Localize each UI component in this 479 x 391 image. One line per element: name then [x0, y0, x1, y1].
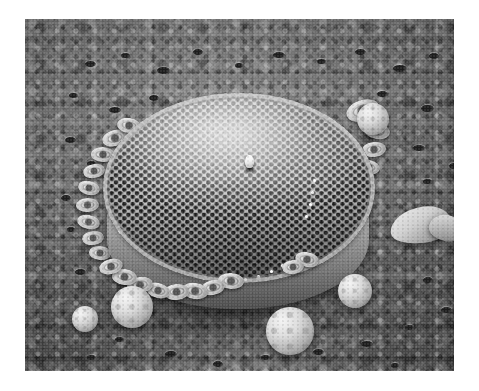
membrane-pore	[405, 325, 414, 330]
membrane-pore	[157, 67, 170, 74]
membrane-pore	[121, 53, 130, 58]
membrane-pore	[423, 179, 432, 184]
valve-face	[103, 93, 375, 283]
membrane-pore	[449, 163, 454, 169]
central-rimoportula	[245, 155, 254, 168]
membrane-pore	[69, 93, 78, 98]
coccosphere-right-cluster	[338, 274, 372, 308]
membrane-pore	[421, 105, 434, 112]
sem-micrograph-figure	[0, 0, 479, 391]
membrane-pore	[317, 59, 326, 64]
membrane-pore	[235, 63, 243, 68]
membrane-pore	[429, 53, 439, 59]
membrane-pore	[193, 49, 203, 55]
coccosphere-bottom-center	[266, 307, 314, 355]
membrane-pore	[85, 61, 96, 67]
membrane-pore	[361, 341, 373, 347]
membrane-pore	[61, 195, 71, 201]
micrograph-image	[25, 19, 454, 371]
membrane-pore	[87, 355, 96, 360]
coccosphere-lower-left	[111, 286, 153, 328]
membrane-pore	[355, 49, 366, 55]
coccosphere-left-margin	[72, 306, 98, 332]
membrane-pore	[423, 277, 433, 283]
membrane-pore	[391, 363, 399, 368]
valve-hyaline-rim	[103, 93, 375, 283]
membrane-pore	[413, 145, 425, 151]
membrane-pore	[65, 137, 76, 143]
membrane-pore	[67, 227, 75, 232]
membrane-pore	[273, 52, 285, 58]
membrane-pore	[441, 307, 452, 313]
membrane-pore	[393, 65, 407, 72]
